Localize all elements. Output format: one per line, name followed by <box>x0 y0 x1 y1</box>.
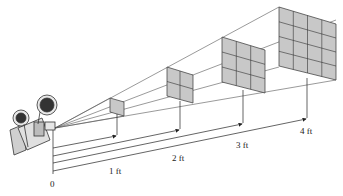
projection-diagram: 0 1 ft 2 ft 3 ft 4 ft <box>0 0 343 196</box>
distance-label-2ft: 2 ft <box>172 153 185 163</box>
square-4ft <box>279 7 336 80</box>
distance-arrows <box>53 119 306 171</box>
projector-icon <box>10 95 57 155</box>
distance-label-3ft: 3 ft <box>236 140 249 150</box>
origin-label: 0 <box>50 179 55 189</box>
square-2ft <box>167 67 193 103</box>
square-1ft <box>110 98 124 116</box>
square-3ft <box>222 37 265 93</box>
distance-label-4ft: 4 ft <box>300 126 313 136</box>
distance-label-1ft: 1 ft <box>109 166 122 176</box>
